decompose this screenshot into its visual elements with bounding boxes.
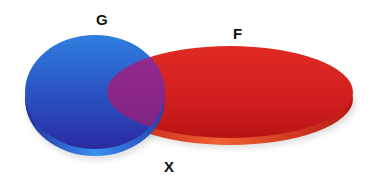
set-g-label: G bbox=[96, 12, 108, 27]
intersection-label: X bbox=[164, 159, 174, 174]
set-f-label: F bbox=[233, 26, 242, 41]
venn-diagram: G F X bbox=[0, 0, 381, 186]
venn-graphic bbox=[0, 0, 381, 186]
